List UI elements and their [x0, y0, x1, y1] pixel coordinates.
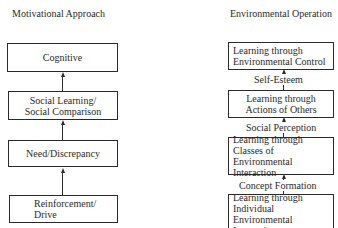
box-actions-of-others: Learning through Actions of Others	[228, 90, 334, 118]
box-line: Environmental Control	[233, 56, 326, 67]
arrow-up-icon	[282, 174, 286, 179]
box-line: Reinforcement/	[34, 198, 96, 209]
box-line: Drive	[34, 209, 57, 220]
arrow-up-icon	[61, 72, 65, 77]
box-line: Actions of Others	[245, 104, 316, 115]
connector-label-social-perception: Social Perception	[245, 122, 317, 133]
box-line: Learning through	[246, 93, 316, 104]
arrow-up-icon	[61, 168, 65, 173]
box-line: Social Comparison	[25, 106, 101, 117]
arrow-line	[62, 75, 63, 91]
box-cognitive: Cognitive	[7, 43, 118, 72]
connector-label-concept-formation: Concept Formation	[238, 180, 318, 191]
arrow-up-icon	[61, 120, 65, 125]
box-need-discrepancy: Need/Discrepancy	[8, 140, 118, 167]
box-classes-of-environmental-interaction: Learning through Classes of Environmenta…	[228, 137, 334, 175]
arrow-line	[62, 123, 63, 140]
box-social-learning: Social Learning/ Social Comparison	[8, 91, 118, 120]
right-column-title: Environmental Operation	[230, 8, 332, 19]
arrow-line	[62, 171, 63, 195]
connector-label-self-esteem: Self-Esteem	[253, 74, 304, 85]
left-column-title: Motivational Approach	[12, 8, 105, 19]
box-line: Cognitive	[43, 52, 82, 63]
box-environmental-control: Learning through Environmental Control	[228, 42, 334, 70]
box-line: Learning through	[233, 45, 303, 56]
box-line: Interactions	[233, 225, 280, 228]
box-reinforcement-drive: Reinforcement/ Drive	[9, 195, 118, 223]
box-line: Need/Discrepancy	[26, 148, 100, 159]
box-line: Social Learning/	[30, 95, 96, 106]
box-line: Interaction	[233, 167, 276, 178]
box-line: Classes of Environmental	[233, 145, 333, 167]
box-line: Individual Environmental	[233, 203, 333, 225]
box-line: Learning through	[233, 134, 303, 145]
box-individual-environmental-interactions: Learning through Individual Environmenta…	[228, 194, 334, 228]
box-line: Learning through	[233, 192, 303, 203]
